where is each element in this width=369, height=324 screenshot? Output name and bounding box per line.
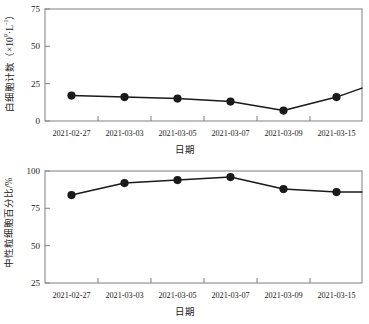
data-point-top-3 (226, 98, 234, 106)
data-point-bottom-4 (279, 185, 287, 193)
data-point-top-2 (173, 95, 181, 103)
plot-frame-top (45, 9, 362, 121)
data-point-bottom-5 (332, 188, 340, 196)
data-line-bottom (72, 177, 363, 195)
chart-panel-neutrophil: 中性粒细胞百分比/% 100 75 50 25 2 (0, 160, 369, 324)
x-axis-label-bottom: 日期 (0, 308, 369, 318)
figure-container: 白细胞计数（×109·L-1） 75 50 25 0 (0, 0, 369, 324)
data-point-bottom-0 (67, 191, 75, 199)
data-point-top-1 (120, 93, 128, 101)
data-point-top-5 (332, 93, 340, 101)
data-point-bottom-2 (173, 176, 181, 184)
plot-area-top (0, 0, 369, 128)
chart-panel-wbc: 白细胞计数（×109·L-1） 75 50 25 0 (0, 0, 369, 162)
data-point-bottom-1 (120, 179, 128, 187)
x-tick-label-bottom-5: 2021-03-15 (299, 292, 369, 300)
plot-frame-bottom (45, 171, 362, 283)
data-point-top-4 (279, 107, 287, 115)
x-axis-label-top: 日期 (0, 146, 369, 156)
data-point-bottom-3 (226, 173, 234, 181)
data-point-top-0 (67, 92, 75, 100)
x-tick-label-top-5: 2021-03-15 (299, 130, 369, 138)
data-line-top (72, 88, 363, 111)
plot-area-bottom (0, 160, 369, 290)
